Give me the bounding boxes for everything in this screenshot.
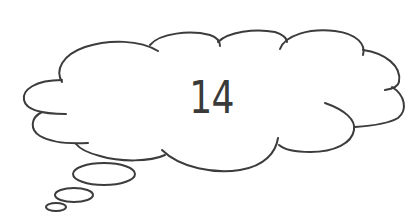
thought-text: 14	[39, 72, 383, 123]
thought-cloud-illustration: 14	[0, 0, 420, 221]
